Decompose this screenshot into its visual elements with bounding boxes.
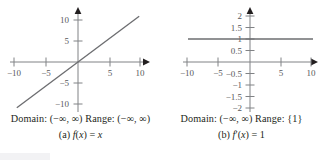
y-tick-label-neg2-b: −2	[232, 103, 242, 113]
y-tick-label-2-b: 2	[238, 11, 243, 21]
panel-b: −10 −5 5 10 2 1.5 1 0.5 −0.5 −1 −1.5 −2 …	[161, 0, 322, 160]
caption-value-a: x	[98, 129, 103, 140]
caption-domain-range-a: Domain: (−∞, ∞) Range: (−∞, ∞)	[0, 113, 161, 124]
derivative-figure: −10 −5 5 10 10 5 −5 −10 Domain: (−∞, ∞) …	[0, 0, 322, 160]
caption-eq-a: ) =	[83, 129, 97, 140]
x-tick-label-neg5-b: −5	[213, 68, 223, 78]
y-tick-label-neg10-a: −10	[55, 99, 70, 109]
caption-eq-b: ) =	[246, 129, 260, 140]
y-tick-label-10-a: 10	[60, 15, 70, 25]
y-tick-label-0_5-b: 0.5	[231, 46, 243, 56]
x-tick-label-neg10-a: −10	[7, 68, 22, 78]
panel-a: −10 −5 5 10 10 5 −5 −10 Domain: (−∞, ∞) …	[0, 0, 161, 160]
y-tick-label-neg0_5-b: −0.5	[226, 69, 243, 79]
y-tick-label-5-a: 5	[65, 36, 70, 46]
x-axis-arrow-a	[143, 59, 150, 66]
y-tick-label-1_5-b: 1.5	[231, 23, 243, 33]
caption-function-a: (a) f(x) = x	[0, 129, 161, 140]
x-tick-label-neg5-a: −5	[41, 68, 51, 78]
y-axis-arrow-a	[75, 7, 82, 14]
caption-label-a: (a)	[59, 129, 73, 140]
chart-a-identity-function: −10 −5 5 10 10 5 −5 −10	[0, 0, 161, 115]
page-edge-artifact	[0, 153, 50, 160]
x-tick-label-10-a: 10	[136, 68, 146, 78]
x-tick-label-5-b: 5	[279, 68, 284, 78]
x-axis-arrow-b	[311, 59, 318, 66]
x-tick-label-neg10-b: −10	[180, 68, 195, 78]
caption-function-b: (b) f′(x) = 1	[161, 129, 322, 140]
chart-b-derivative-constant: −10 −5 5 10 2 1.5 1 0.5 −0.5 −1 −1.5 −2	[161, 0, 322, 115]
caption-value-b: 1	[260, 129, 265, 140]
y-axis-arrow-b	[247, 7, 254, 14]
y-tick-label-neg1_5-b: −1.5	[226, 92, 243, 102]
y-tick-label-neg5-a: −5	[59, 78, 69, 88]
x-tick-label-10-b: 10	[307, 68, 317, 78]
y-tick-label-neg1-b: −1	[232, 80, 242, 90]
caption-label-b: (b)	[218, 129, 232, 140]
x-tick-label-5-a: 5	[108, 68, 113, 78]
caption-domain-range-b: Domain: (−∞, ∞) Range: {1}	[161, 113, 322, 124]
